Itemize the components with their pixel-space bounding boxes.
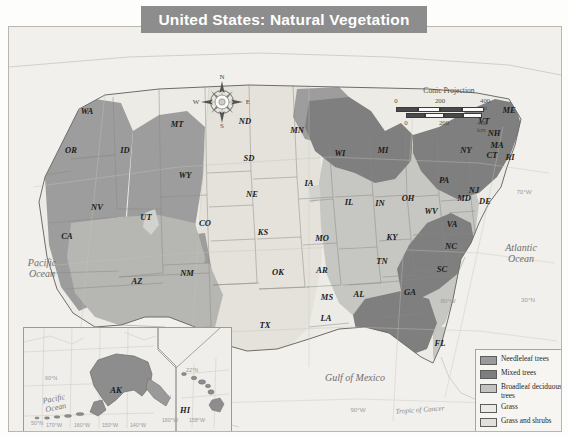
legend-label-mixed: Mixed trees	[501, 368, 536, 377]
scale-km-seg-4	[463, 113, 482, 118]
graticule-label-0: 70°W	[516, 188, 531, 195]
state-label-ms: MS	[321, 292, 333, 302]
state-label-pa: PA	[439, 175, 449, 185]
state-label-ks: KS	[258, 227, 268, 237]
state-label-me: ME	[502, 105, 515, 115]
state-label-ma: MA	[490, 140, 503, 150]
state-label-id: ID	[120, 145, 129, 155]
legend-label-shrubs: Shrubs	[501, 430, 522, 432]
state-label-co: CO	[199, 218, 211, 228]
inset-grid-150w: 150°W	[102, 422, 118, 428]
map-legend: Needleleaf trees Mixed trees Broadleaf d…	[475, 349, 562, 432]
scale-km-tick-400: 400 km	[477, 119, 495, 133]
legend-label-grass-shrubs: Grass and shrubs	[501, 416, 552, 425]
compass-west-label: W	[193, 98, 200, 106]
state-label-il: IL	[345, 197, 354, 207]
state-label-fl: FL	[435, 338, 446, 348]
scale-mi-seg-3	[440, 107, 462, 112]
legend-item-broadleaf: Broadleaf deciduous trees	[480, 382, 562, 401]
atlantic-ocean-label: AtlanticOcean	[505, 242, 537, 264]
legend-swatch-shrubs	[480, 432, 497, 433]
scale-km-tick-0: 0	[404, 119, 407, 126]
state-label-ny: NY	[460, 145, 471, 155]
inset-grid-158w-hi: 158°W	[189, 417, 205, 423]
page-title: United States: Natural Vegetation	[158, 11, 409, 29]
inset-grid-160w-hi: 160°W	[162, 417, 178, 423]
state-label-ok: OK	[272, 267, 284, 277]
compass-south-label: S	[220, 122, 224, 130]
state-label-mo: MO	[315, 233, 329, 243]
state-label-wy: WY	[179, 170, 192, 180]
legend-swatch-grass	[480, 404, 497, 413]
state-label-or: OR	[65, 145, 77, 155]
state-label-tn: TN	[376, 256, 387, 266]
state-label-tx: TX	[260, 320, 271, 330]
state-label-la: LA	[321, 313, 332, 323]
state-label-ut: UT	[140, 212, 151, 222]
scale-mi-tick-200: 200	[435, 97, 445, 104]
inset-grid-140w: 140°W	[130, 422, 146, 428]
legend-label-grass: Grass	[501, 402, 518, 411]
state-label-mn: MN	[290, 125, 304, 135]
legend-label-needleleaf: Needleleaf trees	[501, 354, 549, 363]
state-label-al: AL	[354, 289, 365, 299]
state-label-va: VA	[447, 219, 458, 229]
state-label-mi: MI	[378, 145, 389, 155]
inset-grid-160w: 160°W	[74, 422, 90, 428]
pacific-ocean-label: PacificOcean	[28, 257, 56, 279]
inset-grid-50n: 50°N	[31, 420, 43, 426]
state-label-md: MD	[457, 193, 471, 203]
graticule-label-1: 80°W	[440, 297, 455, 304]
state-label-ky: KY	[387, 232, 398, 242]
inset-label-hawaii: HI	[180, 405, 190, 415]
legend-item-needleleaf: Needleleaf trees	[480, 354, 562, 367]
state-label-nm: NM	[180, 268, 194, 278]
state-label-ca: CA	[61, 231, 72, 241]
legend-swatch-mixed	[480, 370, 497, 379]
scale-km-seg-1	[406, 113, 425, 118]
state-label-ne: NE	[246, 189, 258, 199]
legend-swatch-grass-shrubs	[480, 418, 497, 427]
graticule-label-3: 90°W	[350, 406, 365, 413]
state-label-sd: SD	[244, 153, 255, 163]
state-label-wi: WI	[335, 148, 346, 158]
state-label-ar: AR	[316, 265, 327, 275]
scale-km-seg-3	[444, 113, 463, 118]
scale-km-seg-2	[425, 113, 444, 118]
inset-grid-170w: 170°W	[46, 422, 62, 428]
legend-label-broadleaf: Broadleaf deciduous trees	[501, 382, 562, 400]
map-frame: N E S W Conic Projection 0 200 400 mi 0 …	[8, 26, 562, 432]
page-title-banner: United States: Natural Vegetation	[141, 6, 427, 33]
compass-north-label: N	[219, 73, 224, 81]
state-label-ga: GA	[404, 287, 416, 297]
legend-item-mixed: Mixed trees	[480, 368, 562, 381]
state-label-ri: RI	[506, 152, 515, 162]
compass-rose-icon	[192, 73, 252, 129]
state-label-wa: WA	[81, 106, 94, 116]
state-label-nc: NC	[445, 241, 457, 251]
legend-swatch-needleleaf	[480, 356, 497, 365]
map-page: United States: Natural Vegetation	[0, 0, 568, 437]
scale-mi-seg-4	[462, 107, 484, 112]
state-label-ct: CT	[487, 150, 498, 160]
legend-item-shrubs: Shrubs	[480, 430, 562, 432]
scale-km-tick-200: 200	[439, 119, 449, 126]
compass-east-label: E	[246, 98, 250, 106]
state-label-ia: IA	[305, 178, 314, 188]
projection-label: Conic Projection	[394, 86, 504, 95]
state-label-nv: NV	[91, 202, 103, 212]
legend-swatch-broadleaf	[480, 384, 497, 393]
map-scale: Conic Projection 0 200 400 mi 0 200 400 …	[394, 86, 504, 126]
state-label-sc: SC	[437, 264, 447, 274]
state-label-az: AZ	[132, 276, 143, 286]
gulf-of-mexico-label: Gulf of Mexico	[325, 372, 385, 383]
inset-grid-22n: 22°N	[186, 367, 198, 373]
state-label-de: DE	[479, 196, 491, 206]
inset-label-alaska: AK	[110, 385, 121, 395]
scale-mi-seg-1	[396, 107, 418, 112]
legend-item-grass-shrubs: Grass and shrubs	[480, 416, 562, 429]
inset-grid-20n: 20°N	[159, 394, 171, 400]
compass-rose: N E S W	[192, 73, 252, 129]
scale-mi-seg-2	[418, 107, 440, 112]
inset-map-alaska-hawaii: AK HI PacificOcean 60°N 50°N 170°W 160°W…	[23, 327, 232, 432]
